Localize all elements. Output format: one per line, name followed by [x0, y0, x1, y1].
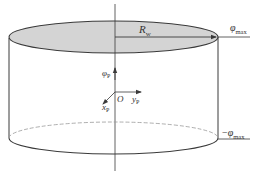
- cylinder-diagram: Rw φmax −φmax φP O yP xP: [0, 0, 260, 176]
- y-p-label: yP: [131, 94, 140, 105]
- bottom-ellipse-front: [9, 138, 218, 154]
- phi-max-bottom-label: −φmax: [222, 127, 245, 140]
- phi-p-label: φP: [102, 68, 111, 79]
- origin-label: O: [117, 94, 124, 104]
- x-p-label: xP: [101, 102, 110, 113]
- phi-max-top-label: φmax: [230, 22, 247, 35]
- bottom-ellipse-hidden: [9, 122, 218, 138]
